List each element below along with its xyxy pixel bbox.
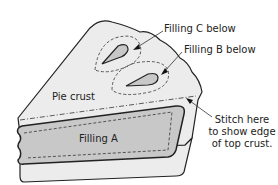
label-pie-crust: Pie crust	[52, 91, 95, 103]
label-stitch-line3: of top crust.	[206, 138, 278, 150]
label-filling-a: Filling A	[79, 133, 118, 145]
label-stitch-line2: to show edge	[206, 126, 278, 138]
label-filling-c: Filling C below	[164, 23, 236, 35]
label-stitch-line1: Stitch here	[206, 114, 278, 126]
label-filling-b: Filling B below	[184, 44, 256, 56]
label-stitch-here: Stitch here to show edge of top crust.	[206, 114, 278, 150]
pie-slice-diagram	[0, 0, 278, 185]
